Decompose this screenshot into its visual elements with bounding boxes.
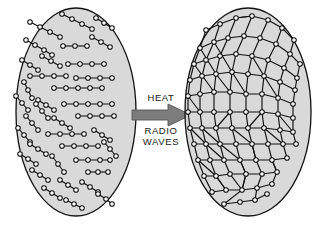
polymer-crosslinking-diagram: HEAT RADIO WAVES xyxy=(0,0,317,227)
radio-waves-line-1: RADIO xyxy=(131,125,191,136)
arrow-body xyxy=(132,104,191,126)
left-blob-outline xyxy=(16,8,136,216)
uncrosslinked-polymer-blob xyxy=(14,8,136,216)
crosslinked-polymer-blob xyxy=(185,8,311,216)
process-arrow xyxy=(132,104,191,126)
radio-waves-line-2: WAVES xyxy=(131,136,191,147)
radio-waves-label: RADIO WAVES xyxy=(131,125,191,147)
diagram-canvas xyxy=(0,0,317,227)
heat-label: HEAT xyxy=(131,92,191,103)
